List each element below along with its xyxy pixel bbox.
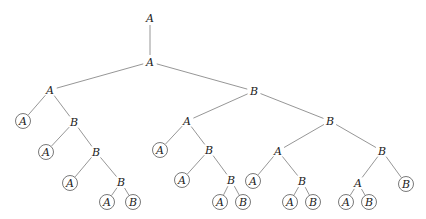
tree-edge xyxy=(386,157,401,178)
node-label: B xyxy=(377,145,386,158)
node-label: B xyxy=(91,146,100,159)
leaf-node: B xyxy=(362,195,377,210)
tree-edge xyxy=(125,188,129,195)
tree-node: B xyxy=(325,115,334,128)
tree-edge xyxy=(54,96,70,117)
tree-edge xyxy=(165,126,182,144)
leaf-node: A xyxy=(175,173,190,188)
node-label: A xyxy=(102,196,111,209)
leaf-node: A xyxy=(339,195,354,210)
tree-edges xyxy=(28,25,401,195)
node-label: A xyxy=(177,174,186,187)
node-label: B xyxy=(325,115,334,128)
leaf-node: A xyxy=(213,195,228,210)
tree-edge xyxy=(336,124,376,147)
tree-edge xyxy=(213,156,227,175)
tree-node: B xyxy=(91,146,100,159)
node-label: A xyxy=(45,84,54,97)
tree-edge xyxy=(187,155,204,174)
node-label: B xyxy=(401,178,410,191)
tree-node: B xyxy=(204,144,213,157)
tree-edge xyxy=(75,157,91,177)
node-label: A xyxy=(145,56,154,69)
tree-edge xyxy=(157,64,248,89)
tree-edge xyxy=(51,127,69,146)
leaf-node: B xyxy=(399,177,414,192)
leaf-node: A xyxy=(100,195,115,210)
tree-node: A xyxy=(182,115,191,128)
node-label: B xyxy=(116,176,125,189)
leaf-node: B xyxy=(236,195,251,210)
tree-edge xyxy=(362,189,365,195)
tree-node: A xyxy=(353,177,362,190)
node-label: A xyxy=(273,145,282,158)
tree-node: B xyxy=(226,174,235,187)
node-label: A xyxy=(353,177,362,190)
tree-edge xyxy=(282,156,297,175)
leaf-node: A xyxy=(16,114,31,129)
tree-edge xyxy=(191,127,205,145)
node-label: A xyxy=(41,146,50,159)
tree-edge xyxy=(57,64,144,88)
node-label: A xyxy=(215,196,224,209)
node-label: B xyxy=(128,196,137,209)
tree-nodes: AAABABABABABABABABABABABABABAB xyxy=(16,12,414,210)
node-label: A xyxy=(341,196,350,209)
tree-edge xyxy=(193,94,247,118)
leaf-node: B xyxy=(126,195,141,210)
tree-node: B xyxy=(249,85,258,98)
tree-node: A xyxy=(45,84,54,97)
tree-edge xyxy=(261,94,324,119)
tree-edge xyxy=(305,187,309,195)
node-label: A xyxy=(145,12,154,25)
tree-node: A xyxy=(145,56,154,69)
tree-node: A xyxy=(273,145,282,158)
leaf-node: A xyxy=(153,143,168,158)
node-label: A xyxy=(182,115,191,128)
leaf-node: A xyxy=(63,176,78,191)
tree-diagram: AAABABABABABABABABABABABABABAB xyxy=(0,0,426,219)
tree-node: B xyxy=(297,175,306,188)
node-label: A xyxy=(155,144,164,157)
tree-edge xyxy=(234,186,239,195)
node-label: B xyxy=(226,174,235,187)
tree-node: B xyxy=(69,116,78,129)
tree-edge xyxy=(28,95,45,115)
node-label: B xyxy=(69,116,78,129)
node-label: B xyxy=(308,196,317,209)
tree-edge xyxy=(294,187,299,195)
node-label: B xyxy=(249,85,258,98)
node-label: B xyxy=(364,196,373,209)
node-label: B xyxy=(238,196,247,209)
tree-edge xyxy=(224,186,228,195)
leaf-node: A xyxy=(39,145,54,160)
tree-edge xyxy=(78,128,92,147)
node-label: B xyxy=(297,175,306,188)
leaf-node: A xyxy=(283,195,298,210)
tree-node: B xyxy=(116,176,125,189)
tree-edge xyxy=(100,157,116,176)
node-label: A xyxy=(285,196,294,209)
tree-edge xyxy=(362,157,378,178)
node-label: A xyxy=(248,175,257,188)
leaf-node: B xyxy=(306,195,321,210)
tree-node: A xyxy=(145,12,154,25)
node-label: A xyxy=(65,177,74,190)
tree-edge xyxy=(258,156,273,174)
leaf-node: A xyxy=(246,174,261,189)
tree-edge xyxy=(284,124,324,147)
node-label: B xyxy=(204,144,213,157)
node-label: A xyxy=(18,115,27,128)
tree-node: B xyxy=(377,145,386,158)
